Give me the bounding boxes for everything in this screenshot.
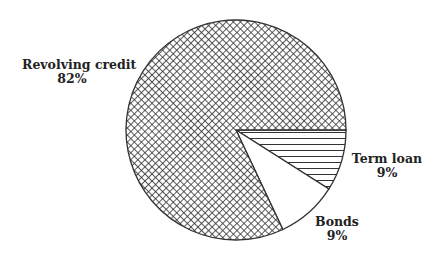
label-percent: 82% [22,72,122,86]
pie-chart [0,0,443,256]
label-name: Bonds [312,215,362,229]
label-bonds: Bonds 9% [312,215,362,243]
label-name: Term loan [347,152,427,166]
pie-slices [126,20,346,240]
label-revolving-credit: Revolving credit 82% [22,58,122,86]
label-percent: 9% [347,166,427,180]
label-name: Revolving credit [22,58,122,72]
label-percent: 9% [312,229,362,243]
label-term-loan: Term loan 9% [347,152,427,180]
